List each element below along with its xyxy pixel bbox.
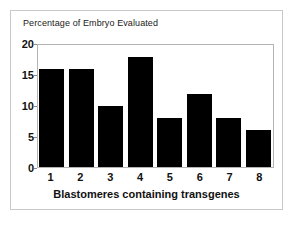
x-tick-label: 6 [187,171,212,183]
x-tick-label: 2 [68,171,93,183]
x-tick-label: 5 [157,171,182,183]
x-tick-label: 3 [98,171,123,183]
plot-area [37,44,274,168]
x-axis-title: Blastomeres containing transgenes [11,188,282,200]
bar [246,130,271,167]
x-axis: 1 2 3 4 5 6 7 8 [37,171,274,183]
x-tick-label: 8 [247,171,272,183]
bar [128,57,153,167]
y-tick-label: 5 [12,131,34,143]
y-tick-mark [34,168,37,169]
bar [69,69,94,167]
chart-title: Percentage of Embryo Evaluated [23,18,158,28]
bar [187,94,212,167]
bar [39,69,64,167]
bar [98,106,123,167]
x-tick-label: 1 [38,171,63,183]
x-tick-label: 7 [217,171,242,183]
y-tick-label: 15 [12,69,34,81]
bar [157,118,182,167]
bar-series [38,45,273,167]
y-tick-label: 10 [12,100,34,112]
y-axis: 20 15 10 5 0 [11,44,34,168]
figure-panel: Percentage of Embryo Evaluated 20 15 10 … [10,10,283,210]
y-tick-label: 20 [12,38,34,50]
x-tick-label: 4 [128,171,153,183]
y-tick-label: 0 [12,162,34,174]
bar [216,118,241,167]
